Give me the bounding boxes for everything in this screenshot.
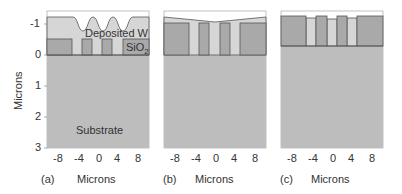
panel-a-xlabel: Microns [77,173,116,185]
label-sio2: SiO2 [126,41,149,56]
panel-c-tag: (c) [280,173,293,185]
figure-canvas [0,0,402,194]
y-tick: 0 [35,48,41,60]
panel-a-tag: (a) [41,173,54,185]
y-tick: 3 [35,141,41,153]
y-tick: -1 [30,17,40,29]
label-substrate: Substrate [76,124,123,136]
label-deposited-w: Deposited W [85,27,148,39]
panel-c-xlabel: Microns [311,173,350,185]
y-tick: 2 [35,110,41,122]
panel-c [281,11,383,148]
panel-b-tag: (b) [163,173,176,185]
panel-b-xlabel: Microns [195,173,234,185]
panel-b [164,11,266,148]
y-tick: 1 [35,79,41,91]
y-axis-label: Microns [12,71,24,110]
